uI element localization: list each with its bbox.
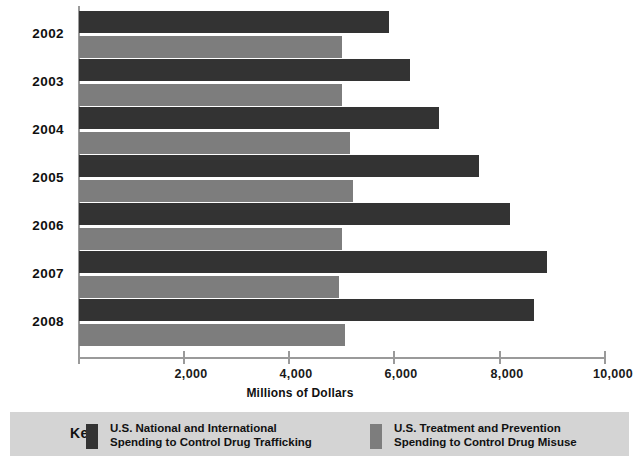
y-axis-label-2005: 2005 bbox=[32, 170, 64, 185]
bar-treatment-2005 bbox=[79, 180, 353, 202]
x-axis-line bbox=[78, 357, 605, 359]
y-axis-label-2007: 2007 bbox=[32, 266, 64, 281]
legend-swatch-icon-treatment bbox=[370, 424, 382, 449]
bar-treatment-2002 bbox=[79, 36, 342, 58]
legend-text-trafficking-line1: U.S. National and International bbox=[110, 422, 312, 436]
bar-treatment-2007 bbox=[79, 276, 339, 298]
bar-trafficking-2007 bbox=[79, 251, 547, 273]
bar-trafficking-2004 bbox=[79, 107, 439, 129]
legend-text-treatment-line1: U.S. Treatment and Prevention bbox=[394, 422, 577, 436]
x-axis-tick-4000 bbox=[288, 351, 290, 364]
x-axis-tick-10000 bbox=[604, 351, 606, 364]
chart-legend: Key U.S. National and International Spen… bbox=[10, 412, 629, 456]
y-axis-label-2004: 2004 bbox=[32, 122, 64, 137]
bar-trafficking-2002 bbox=[79, 11, 389, 33]
bar-chart: 2002 2003 2004 2005 2006 2007 2008 2,000… bbox=[0, 0, 639, 404]
y-axis-label-2002: 2002 bbox=[32, 26, 64, 41]
bar-treatment-2003 bbox=[79, 84, 342, 106]
bar-treatment-2008 bbox=[79, 324, 345, 346]
legend-swatch-icon-trafficking bbox=[86, 424, 98, 449]
y-axis-label-2008: 2008 bbox=[32, 314, 64, 329]
x-axis-tick-label-4000: 4,000 bbox=[280, 367, 313, 381]
x-axis-title: Millions of Dollars bbox=[0, 386, 600, 400]
x-axis-tick-label-10000: 10,000 bbox=[593, 367, 633, 381]
y-axis-label-2006: 2006 bbox=[32, 218, 64, 233]
legend-text-treatment: U.S. Treatment and Prevention Spending t… bbox=[394, 422, 577, 449]
y-axis-category-labels: 2002 2003 2004 2005 2006 2007 2008 bbox=[0, 0, 78, 352]
legend-text-trafficking-line2: Spending to Control Drug Trafficking bbox=[110, 436, 312, 450]
y-axis-label-2003: 2003 bbox=[32, 74, 64, 89]
x-axis-tick-label-2000: 2,000 bbox=[175, 367, 208, 381]
bar-trafficking-2003 bbox=[79, 59, 410, 81]
x-axis-tick-label-8000: 8,000 bbox=[491, 367, 524, 381]
legend-text-trafficking: U.S. National and International Spending… bbox=[110, 422, 312, 449]
bar-trafficking-2008 bbox=[79, 299, 534, 321]
x-axis-tick-0 bbox=[78, 351, 80, 364]
x-axis-tick-6000 bbox=[393, 351, 395, 364]
legend-text-treatment-line2: Spending to Control Drug Misuse bbox=[394, 436, 577, 450]
bar-trafficking-2005 bbox=[79, 155, 479, 177]
bar-treatment-2006 bbox=[79, 228, 342, 250]
x-axis-tick-2000 bbox=[183, 351, 185, 364]
x-axis-tick-8000 bbox=[499, 351, 501, 364]
bar-trafficking-2006 bbox=[79, 203, 510, 225]
x-axis-tick-label-6000: 6,000 bbox=[385, 367, 418, 381]
bar-treatment-2004 bbox=[79, 132, 350, 154]
